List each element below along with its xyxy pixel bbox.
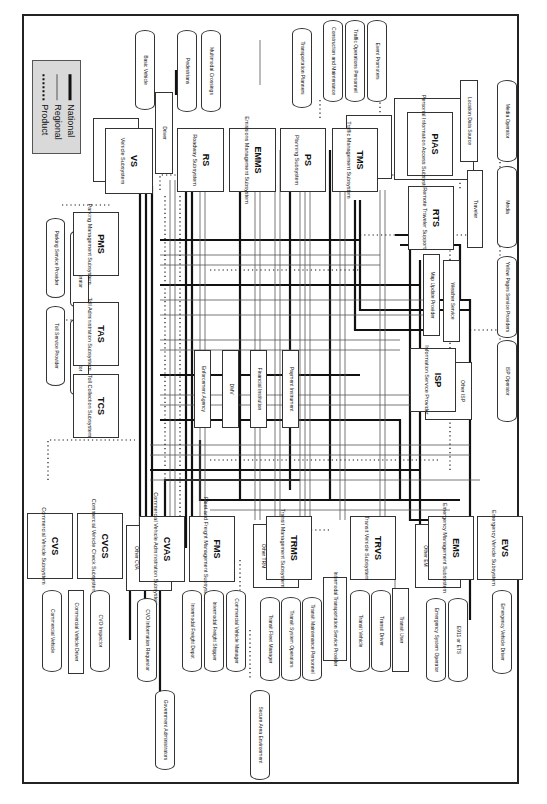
terminator-emergency-system-operator[interactable]: Emergency System Operator — [426, 598, 446, 682]
subsystem-name: Fleet and Freight Management Subsystem — [203, 497, 209, 601]
subsystem-name: Transit Management Subsystem — [280, 509, 286, 588]
subsystem-abbr: RS — [200, 134, 210, 186]
box-location-data-source[interactable]: Location Data Source — [460, 80, 478, 162]
subsystem-cvcs[interactable]: CVCSCommercial Vehicle Check Subsystem — [77, 513, 123, 579]
terminator-label: Commercial Vehicle Manager — [233, 598, 239, 663]
box-label: Transit User — [398, 616, 404, 643]
terminator-label: Government Administrators — [162, 700, 168, 761]
subsystem-name: Commercial Vehicle Subsystem — [41, 507, 47, 584]
terminator-transit-fleet-manager[interactable]: Transit Fleet Manager — [260, 597, 280, 681]
terminator-emergency-vehicle-driver[interactable]: Emergency Vehicle Driver — [492, 590, 512, 674]
terminator-media-operator[interactable]: Media Operator — [497, 80, 517, 162]
subsystem-rts[interactable]: RTSRemote Traveler Support — [408, 186, 454, 250]
terminator-commercial-vehicle-manager[interactable]: Commercial Vehicle Manager — [226, 590, 246, 672]
subsystem-name: Emergency Vehicle Subsystem — [491, 510, 497, 586]
subsystem-name: Roadway Subsystem — [192, 134, 198, 186]
subsystem-abbr: TRVS — [372, 516, 382, 581]
terminator-label: Basic Vehicle — [142, 55, 148, 85]
box-dmv[interactable]: DMV — [222, 350, 239, 428]
subsystem-evs[interactable]: EVSEmergency Vehicle Subsystem — [477, 516, 523, 580]
subsystem-label: CVCSCommercial Vehicle Check Subsystem — [91, 499, 109, 593]
terminator-event-promoters[interactable]: Event Promoters — [367, 20, 387, 102]
terminator-yellow-pages-service-providers[interactable]: Yellow Pages Service Providers — [497, 256, 517, 338]
subsystem-ps[interactable]: PSPlanning Subsystem — [280, 128, 326, 192]
subsystem-tas[interactable]: TASToll Administration Subsystem — [73, 302, 119, 366]
box-enforcement-agency[interactable]: Enforcement Agency — [194, 350, 211, 428]
box-label: Other CVA — [133, 546, 139, 570]
box-commercial-vehicle-driver[interactable]: Commercial Vehicle Driver — [68, 590, 84, 674]
subsystem-label: CVASCommercial Vehicle Administration Su… — [153, 492, 171, 605]
box-traveler[interactable]: Traveler — [467, 170, 483, 248]
subsystem-abbr: PS — [302, 135, 312, 185]
terminator-label: Transit System Operators — [288, 611, 294, 668]
subsystem-abbr: TAS — [95, 297, 105, 370]
terminator-isp-operator[interactable]: ISP Operator — [497, 340, 517, 422]
subsystem-abbr: CVS — [49, 507, 59, 584]
subsystem-trms[interactable]: TRMSTransit Management Subsystem — [266, 516, 312, 580]
subsystem-trvs[interactable]: TRVSTransit Vehicle Subsystem — [350, 516, 396, 580]
solid-thin-line-icon — [56, 74, 57, 100]
terminator-cvo-inspector[interactable]: CVO Inspector — [90, 590, 110, 672]
subsystem-vs[interactable]: VSVehicle Subsystem — [105, 128, 153, 194]
box-label: Other EM — [422, 545, 428, 566]
subsystem-label: TRMSTransit Management Subsystem — [280, 509, 298, 588]
terminator-label: Media — [504, 200, 510, 214]
terminator-e911-or-ets[interactable]: E911 or ETS — [448, 598, 468, 682]
box-driver[interactable]: Driver — [155, 92, 173, 174]
terminator-label: ISP Operator — [504, 366, 510, 395]
terminator-label: Transportation Planners — [299, 41, 305, 94]
terminator-secure-area-environment[interactable]: Secure Area Environment — [250, 690, 270, 780]
box-financial-institution[interactable]: Financial Institution — [250, 350, 267, 428]
terminator-transit-vehicle[interactable]: Transit Vehicle — [350, 590, 370, 672]
subsystem-tcs[interactable]: TCSToll Collection Subsystem — [73, 374, 119, 438]
subsystem-label: PMSParking Management Subsystem — [87, 203, 105, 284]
box-label: Other TRM — [260, 544, 266, 569]
terminator-label: Toll Service Provider — [53, 323, 59, 369]
terminator-intermodal-freight-shipper[interactable]: Intermodal Freight Shipper — [204, 590, 224, 672]
subsystem-tms[interactable]: TMSTraffic Management Subsystem — [332, 128, 378, 192]
subsystem-label: RSRoadway Subsystem — [192, 134, 210, 186]
subsystem-fms[interactable]: FMSFleet and Freight Management Subsyste… — [189, 516, 235, 582]
box-label: Map Update Provider — [429, 271, 435, 318]
subsystem-rs[interactable]: RSRoadway Subsystem — [177, 128, 224, 192]
terminator-label: Pedestrians — [184, 58, 190, 84]
terminator-multimodal-crossings[interactable]: Multimodal Crossings — [201, 30, 221, 112]
subsystem-pias[interactable]: PIASPersonal Information Access Subsyste… — [407, 112, 453, 176]
terminator-transportation-planners[interactable]: Transportation Planners — [292, 28, 312, 108]
subsystem-name: Parking Management Subsystem — [87, 203, 93, 284]
subsystem-name: Emergency Management Subsystem — [442, 503, 448, 593]
terminator-label: Multimodal Crossings — [208, 47, 214, 95]
terminator-traffic-operations-personnel[interactable]: Traffic Operations Personnel — [345, 20, 365, 102]
subsystem-name: Planning Subsystem — [294, 135, 300, 185]
subsystem-abbr: CVAS — [161, 492, 171, 605]
terminator-pedestrians[interactable]: Pedestrians — [177, 30, 197, 112]
terminator-transit-maintenance-personnel[interactable]: Transit Maintenance Personnel — [302, 597, 322, 681]
box-payment-instrument[interactable]: Payment Instrument — [282, 350, 299, 428]
terminator-transit-driver[interactable]: Transit Driver — [371, 590, 391, 672]
terminator-basic-vehicle[interactable]: Basic Vehicle — [135, 30, 155, 110]
terminator-toll-service-provider[interactable]: Toll Service Provider — [46, 306, 65, 386]
box-transit-user[interactable]: Transit User — [392, 588, 409, 672]
subsystem-name: Information Service Provider — [424, 345, 430, 414]
subsystem-ems[interactable]: EMSEmergency Management Subsystem — [428, 516, 474, 580]
subsystem-emms[interactable]: EMMSEmissions Management Subsystem — [229, 128, 276, 192]
box-intermodal-transportation-service-provider[interactable]: Intermodal Transportation Service Provid… — [323, 577, 347, 661]
terminator-media[interactable]: Media — [497, 166, 517, 248]
terminator-label: Intermodal Freight Shipper — [211, 601, 217, 660]
legend-item-national: National — [63, 74, 76, 140]
subsystem-pms[interactable]: PMSParking Management Subsystem — [73, 212, 119, 276]
terminator-label: Transit Fleet Manager — [267, 615, 273, 664]
box-weather-service[interactable]: Weather Service — [443, 260, 460, 342]
terminator-transit-system-operators[interactable]: Transit System Operators — [281, 597, 301, 681]
subsystem-cvas[interactable]: CVASCommercial Vehicle Administration Su… — [139, 516, 185, 582]
terminator-government-administrators[interactable]: Government Administrators — [155, 690, 175, 770]
subsystem-cvs[interactable]: CVSCommercial Vehicle Subsystem — [27, 513, 73, 579]
box-map-update-provider[interactable]: Map Update Provider — [423, 254, 440, 336]
terminator-parking-service-provider[interactable]: Parking Service Provider — [46, 218, 65, 298]
subsystem-isp[interactable]: ISPInformation Service Provider — [410, 348, 456, 412]
box-label: Traveler — [472, 200, 478, 218]
terminator-cvo-information-requestor[interactable]: CVO Information Requestor — [137, 598, 157, 682]
terminator-construction-and-maintenance[interactable]: Construction and Maintenance — [323, 20, 343, 102]
terminator-intermodal-freight-depot[interactable]: Intermodal Freight Depot — [182, 590, 202, 672]
terminator-commercial-vehicle[interactable]: Commercial Vehicle — [42, 590, 62, 672]
